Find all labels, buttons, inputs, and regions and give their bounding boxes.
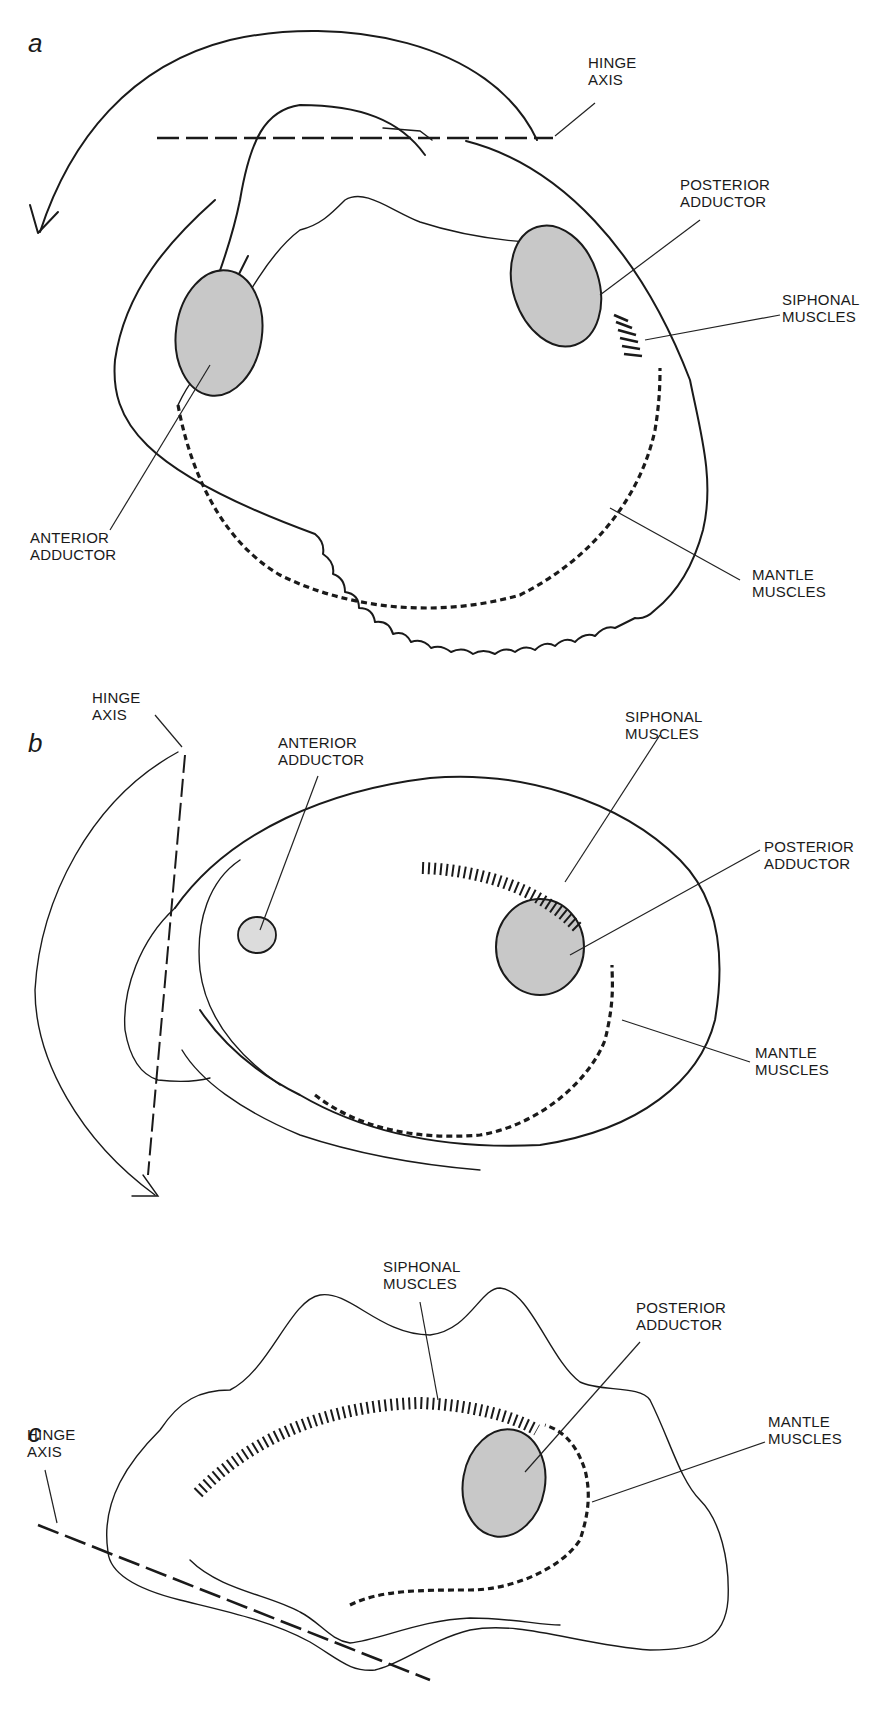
svg-text:ANTERIORADDUCTOR: ANTERIORADDUCTOR xyxy=(30,529,116,563)
svg-text:MANTLEMUSCLES: MANTLEMUSCLES xyxy=(768,1413,842,1447)
panel-a: a xyxy=(28,28,859,654)
siphonal-muscles xyxy=(614,315,642,356)
svg-text:MANTLEMUSCLES: MANTLEMUSCLES xyxy=(752,566,826,600)
posterior-adductor-leader xyxy=(570,850,760,955)
svg-text:POSTERIORADDUCTOR: POSTERIORADDUCTOR xyxy=(636,1299,726,1333)
hinge-axis-leader xyxy=(155,715,182,747)
shell-beak-outer xyxy=(125,908,210,1081)
hinge-axis-leader xyxy=(555,103,595,136)
mantle-muscle-line xyxy=(315,965,612,1136)
siphonal-leader xyxy=(420,1302,438,1400)
panel-b-letter: b xyxy=(28,728,42,758)
panel-b: b HINGEAXIS ANTERIORADDUCTOR SIPHONALMUS… xyxy=(28,689,854,1196)
shell-outline xyxy=(175,777,719,1146)
anterior-adductor-scar xyxy=(168,265,271,402)
siphonal-leader xyxy=(645,315,780,340)
shell-inner-margin xyxy=(190,1560,560,1643)
posterior-adductor-leader xyxy=(600,220,700,295)
anterior-adductor-leader xyxy=(260,776,318,930)
arrowhead-icon xyxy=(132,1175,158,1196)
anterior-adductor-scar xyxy=(238,917,276,953)
hinge-axis-leader xyxy=(45,1470,57,1523)
svg-text:MANTLEMUSCLES: MANTLEMUSCLES xyxy=(755,1044,829,1078)
panel-a-letter: a xyxy=(28,28,42,58)
posterior-adductor-scar xyxy=(454,1423,554,1544)
svg-text:SIPHONALMUSCLES: SIPHONALMUSCLES xyxy=(383,1258,460,1292)
svg-text:POSTERIORADDUCTOR: POSTERIORADDUCTOR xyxy=(680,176,770,210)
svg-text:HINGEAXIS: HINGEAXIS xyxy=(92,689,141,723)
hinge-axis-line xyxy=(38,1525,430,1680)
panel-c: c SIPHONALMUSCLES POSTERIORADDUCTOR HING… xyxy=(27,1258,842,1680)
bivalve-muscle-diagram: a xyxy=(0,0,872,1721)
svg-text:SIPHONALMUSCLES: SIPHONALMUSCLES xyxy=(782,291,859,325)
mantle-leader xyxy=(592,1442,765,1502)
hinge-axis-line xyxy=(148,755,185,1175)
mantle-leader xyxy=(610,508,740,580)
svg-text:POSTERIORADDUCTOR: POSTERIORADDUCTOR xyxy=(764,838,854,872)
svg-text:SIPHONALMUSCLES: SIPHONALMUSCLES xyxy=(625,708,702,742)
rotation-arrow xyxy=(35,752,178,1195)
anterior-adductor-leader xyxy=(110,365,210,530)
posterior-adductor-scar xyxy=(496,214,616,359)
mantle-leader xyxy=(622,1020,750,1062)
svg-text:ANTERIORADDUCTOR: ANTERIORADDUCTOR xyxy=(278,734,364,768)
posterior-adductor-leader xyxy=(525,1342,640,1472)
mantle-muscle-line xyxy=(178,368,660,608)
svg-text:HINGEAXIS: HINGEAXIS xyxy=(27,1426,76,1460)
svg-text:HINGEAXIS: HINGEAXIS xyxy=(588,54,637,88)
siphonal-leader xyxy=(565,735,660,882)
shell-beak-inner xyxy=(199,860,280,1085)
rotation-arrow xyxy=(40,31,537,232)
shell-outline xyxy=(107,1288,729,1670)
